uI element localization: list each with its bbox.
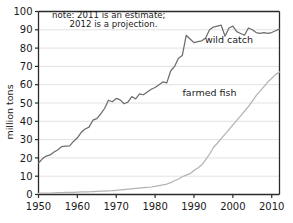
y-tick-label-40: 40 [20, 116, 33, 127]
series-label-farmed-fish: farmed fish [183, 87, 237, 98]
series-label-wild-catch: wild catch [205, 34, 253, 45]
x-tick-label-2010: 2010 [259, 201, 284, 212]
y-tick-label-30: 30 [20, 134, 33, 145]
y-axis-title: million tons [4, 84, 15, 139]
fish-production-chart: 0102030405060708090100 19501960197019801… [0, 0, 293, 223]
y-tick-label-20: 20 [20, 153, 33, 164]
y-tick-label-90: 90 [20, 24, 33, 35]
y-tick-label-100: 100 [13, 6, 32, 17]
y-tick-label-0: 0 [26, 189, 32, 200]
x-tick-label-1970: 1970 [104, 201, 129, 212]
y-tick-label-70: 70 [20, 61, 33, 72]
x-tick-label-1990: 1990 [181, 201, 206, 212]
x-tick-label-1960: 1960 [65, 201, 90, 212]
chart-note: note: 2011 is an estimate;2012 is a proj… [52, 10, 165, 29]
y-tick-label-10: 10 [20, 171, 33, 182]
y-tick-label-60: 60 [20, 79, 33, 90]
x-tick-label-1950: 1950 [26, 201, 51, 212]
y-tick-label-50: 50 [20, 98, 33, 109]
x-tick-label-1980: 1980 [142, 201, 167, 212]
x-tick-label-2000: 2000 [220, 201, 245, 212]
chart-canvas: 0102030405060708090100 19501960197019801… [0, 0, 293, 223]
note-line-2: 2012 is a projection. [70, 19, 158, 29]
y-tick-label-80: 80 [20, 43, 33, 54]
